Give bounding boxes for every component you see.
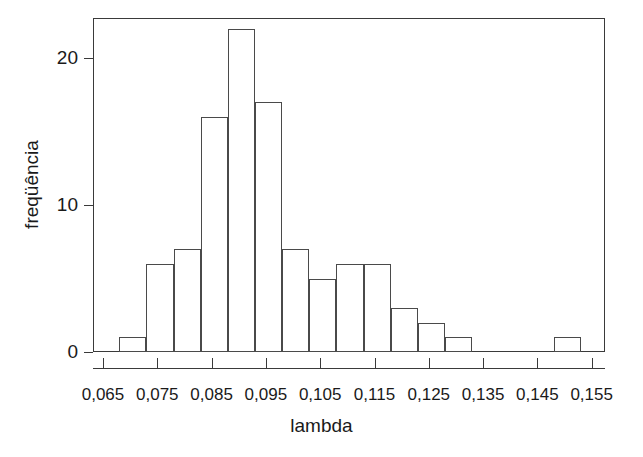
plot-frame: [93, 18, 605, 352]
y-axis-title: freqüência: [22, 105, 41, 265]
x-axis-tick-mark: [157, 358, 158, 369]
x-axis-tick-mark: [103, 358, 104, 369]
x-axis-tick-label: 0,105: [290, 386, 350, 404]
histogram-figure: 01020freqüência 0,0650,0750,0850,0950,10…: [0, 0, 643, 457]
x-axis-tick-label: 0,095: [236, 386, 296, 404]
x-axis-tick-mark: [429, 358, 430, 369]
x-axis-tick-mark: [266, 358, 267, 369]
x-axis-tick-label: 0,155: [562, 386, 622, 404]
y-axis-tick-label: 20: [38, 48, 78, 67]
x-axis-tick-label: 0,075: [127, 386, 187, 404]
y-axis-tick-mark: [84, 205, 93, 206]
x-axis-line: [93, 368, 605, 369]
x-axis-tick-label: 0,085: [182, 386, 242, 404]
x-axis-tick-mark: [483, 358, 484, 369]
y-axis-tick-mark: [84, 58, 93, 59]
x-axis-tick-mark: [320, 358, 321, 369]
x-axis-tick-label: 0,145: [507, 386, 567, 404]
x-axis-tick-mark: [592, 358, 593, 369]
x-axis-tick-label: 0,065: [73, 386, 133, 404]
x-axis-tick-label: 0,135: [453, 386, 513, 404]
x-axis-tick-label: 0,125: [399, 386, 459, 404]
y-axis-tick-label: 10: [38, 195, 78, 214]
x-axis-tick-mark: [375, 358, 376, 369]
x-axis-tick-mark: [212, 358, 213, 369]
x-axis-tick-mark: [537, 358, 538, 369]
y-axis-tick-mark: [84, 352, 93, 353]
x-axis-tick-label: 0,115: [345, 386, 405, 404]
y-axis-tick-label: 0: [38, 342, 78, 361]
x-axis-title: lambda: [0, 416, 643, 436]
